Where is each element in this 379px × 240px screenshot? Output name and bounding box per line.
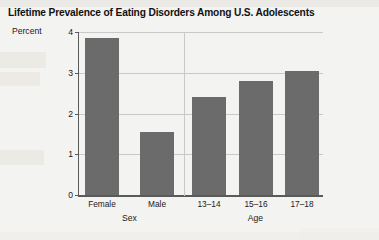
y-axis-tick-mark xyxy=(75,154,78,155)
x-axis-tick-label: Male xyxy=(148,199,166,209)
group-label: Age xyxy=(248,213,263,223)
gridline xyxy=(79,32,323,33)
x-axis-tick-label: 15–16 xyxy=(244,199,267,209)
group-label: Sex xyxy=(122,213,137,223)
scan-artifact xyxy=(0,232,379,240)
scan-artifact xyxy=(0,150,44,165)
x-axis-tick-label: Female xyxy=(88,199,116,209)
y-axis-unit-label: Percent xyxy=(12,26,42,36)
bar xyxy=(85,38,119,195)
x-axis-tick-label: 17–18 xyxy=(290,199,313,209)
scanned-page: Lifetime Prevalence of Eating Disorders … xyxy=(0,0,379,240)
scan-artifact xyxy=(0,0,379,7)
y-axis-tick-label: 1 xyxy=(68,149,73,159)
y-axis-tick-label: 2 xyxy=(68,109,73,119)
scan-artifact xyxy=(0,72,40,86)
bar xyxy=(140,132,174,195)
group-divider xyxy=(184,32,185,196)
x-axis-tick-label: 13–14 xyxy=(197,199,220,209)
scan-artifact xyxy=(300,228,379,240)
chart-plot-area: 01234 FemaleMale13–1415–1617–18 SexAge xyxy=(78,32,323,196)
y-axis-tick-mark xyxy=(75,114,78,115)
y-axis-tick-label: 4 xyxy=(68,27,73,37)
x-axis-line xyxy=(78,195,323,197)
y-axis-tick-label: 0 xyxy=(68,190,73,200)
y-axis-tick-mark xyxy=(75,32,78,33)
scan-artifact xyxy=(0,52,46,68)
bar xyxy=(239,81,273,195)
bar xyxy=(192,97,226,195)
y-axis-tick-mark xyxy=(75,195,78,196)
bar xyxy=(285,71,319,195)
y-axis-tick-label: 3 xyxy=(68,68,73,78)
y-axis-tick-mark xyxy=(75,73,78,74)
chart-title: Lifetime Prevalence of Eating Disorders … xyxy=(8,7,314,18)
